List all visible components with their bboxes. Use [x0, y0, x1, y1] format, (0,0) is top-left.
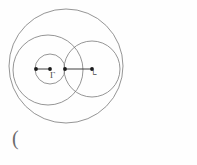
outer-circle — [9, 9, 123, 123]
left-large-circle — [13, 35, 83, 105]
figure-canvas: Г └ ( — [0, 0, 197, 165]
tangency-point — [63, 67, 67, 71]
left-outer-point — [34, 67, 38, 71]
stray-parenthesis-mark: ( — [12, 128, 19, 148]
right-center-label: └ — [90, 70, 96, 79]
geometry-drawing — [0, 0, 197, 165]
left-center-label: Г — [50, 71, 55, 80]
